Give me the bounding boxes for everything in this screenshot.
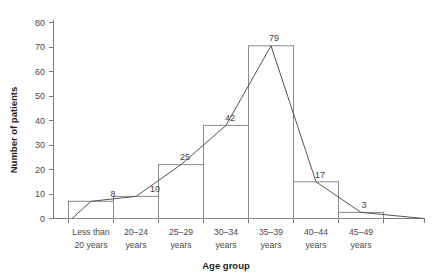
histogram-figure: Number of patients 0 10 20 30 40 50 60 7… (0, 0, 433, 278)
y-tick-label: 0 (40, 214, 45, 224)
x-tick-label-40-44-years-line2: years (305, 240, 326, 250)
bar-45-49-years[interactable] (339, 212, 384, 218)
x-tick-label-25-29-years-line2: years (170, 240, 191, 250)
x-tick-label-less-than-20-years: Less than (72, 227, 109, 237)
x-tick-label-30-34-years: 30–34 (214, 227, 238, 237)
bar-value-label: 8 (110, 189, 115, 199)
y-tick-label: 30 (35, 140, 45, 150)
y-tick-label: 60 (35, 67, 45, 77)
y-tick-label: 10 (35, 189, 45, 199)
y-tick-label: 50 (35, 91, 45, 101)
bar-value-label: 17 (315, 170, 325, 180)
bar-25-29-years[interactable] (159, 165, 204, 219)
y-axis-title: Number of patients (8, 87, 19, 174)
x-tick-label-30-34-years-line2: years (215, 240, 236, 250)
x-tick-label-20-24-years-line2: years (125, 240, 146, 250)
y-axis-ticks: 0 10 20 30 40 50 60 70 80 (35, 18, 54, 224)
x-axis-ticks (69, 219, 384, 224)
x-tick-label-40-44-years: 40–44 (304, 227, 328, 237)
x-axis-title: Age group (202, 260, 250, 271)
x-tick-label-25-29-years: 25–29 (169, 227, 193, 237)
bar-value-label: 10 (150, 184, 160, 194)
bar-20-24-years[interactable] (114, 196, 159, 218)
y-tick-label: 80 (35, 18, 45, 28)
y-tick-label: 70 (35, 42, 45, 52)
y-tick-label: 40 (35, 116, 45, 126)
x-tick-label-45-49-years: 45–49 (349, 227, 373, 237)
bar-value-label: 3 (361, 200, 366, 210)
x-tick-label-35-39-years-line2: years (260, 240, 281, 250)
x-tick-label-45-49-years-line2: years (350, 240, 371, 250)
x-tick-label-less-than-20-years-line2: 20 years (75, 240, 108, 250)
chart-canvas: Number of patients 0 10 20 30 40 50 60 7… (0, 0, 433, 278)
bar-35-39-years[interactable] (249, 46, 294, 219)
y-tick-label: 20 (35, 165, 45, 175)
histogram-bars (69, 46, 384, 219)
bar-value-label: 42 (225, 113, 235, 123)
x-axis-tick-labels: Less than 20 years 20–24 years 25–29 yea… (72, 227, 373, 250)
x-tick-label-20-24-years: 20–24 (124, 227, 148, 237)
bar-40-44-years[interactable] (294, 182, 339, 219)
bar-value-label: 25 (180, 152, 190, 162)
bar-value-labels: 8 10 25 42 79 17 3 (110, 33, 366, 210)
x-tick-label-35-39-years: 35–39 (259, 227, 283, 237)
bar-value-label: 79 (269, 33, 279, 43)
